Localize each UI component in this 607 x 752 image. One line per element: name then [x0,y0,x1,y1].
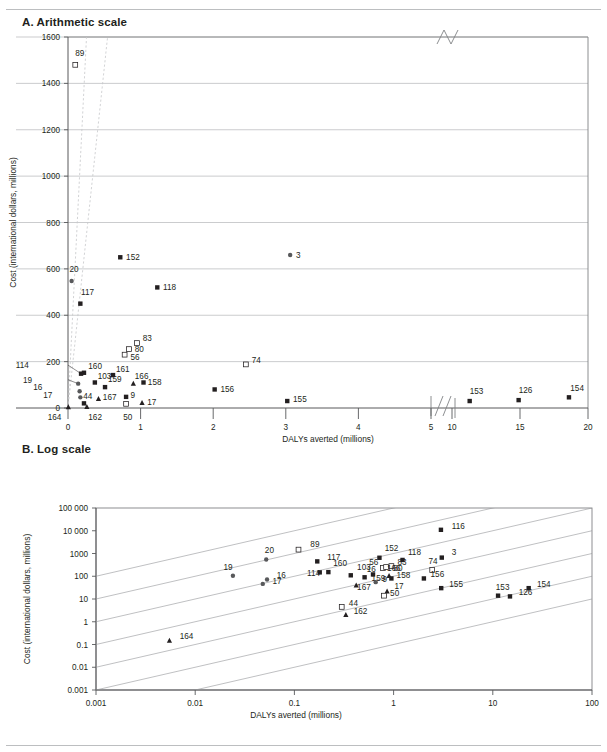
marker-44 [82,401,86,405]
panel-a-datapoint-16: 16 [33,383,82,394]
marker-17 [78,395,82,399]
marker-103 [93,380,97,384]
panel-a-x-ticklabels: 012345101520 [66,408,593,432]
iso-line-1e0 [0,554,607,736]
iso-line-1e5 [0,440,607,622]
marker-17 [261,582,265,586]
marker-156 [212,387,216,391]
panel-b-axes [96,508,592,690]
panel-a-datapoint-56: 56 [122,352,140,362]
marker-158 [141,380,145,384]
panel-a-label-156: 156 [220,385,234,394]
panel-b-label-20: 20 [265,546,275,555]
panel-b-label-50: 50 [390,589,400,598]
panel-b-datapoint-116: 116 [439,522,466,532]
panel-b-label-164: 164 [180,632,194,641]
panel-a-xtick-5: 5 [429,423,434,432]
marker-17b [385,588,390,593]
marker-20 [69,279,73,283]
panel-b-ytick-4: 10 [79,595,89,604]
panel-b-points: 1168920152118311756837480191601141031617… [167,522,551,643]
marker-9 [124,395,128,399]
panel-b-ytick-0: 0.001 [68,686,89,695]
iso-line-1e2 [0,508,607,690]
panel-a-datapoint-167: 167 [96,393,117,402]
panel-a-label-83: 83 [143,334,153,343]
panel-b-datapoint-162: 162 [343,607,368,617]
panel-a-gridlines [16,37,588,362]
panel-a-ytick-1600: 1600 [42,33,61,42]
panel-a-xtick-1: 1 [138,423,143,432]
panel-b-datapoint-126: 126 [508,588,533,598]
panel-a-label-158: 158 [148,378,162,387]
marker-19 [76,381,80,385]
marker-89 [296,547,301,552]
marker-3 [440,555,444,559]
panel-a-label-152: 152 [126,253,140,262]
marker-162 [343,612,348,617]
panel-a-label-17: 17 [43,391,53,400]
panel-a-points: 8920117152311883805674114160161103159166… [16,49,585,422]
panel-a-datapoint-117: 117 [78,288,94,306]
panel-a-datapoint-50: 50 [123,401,133,421]
panel-b-label-155: 155 [449,580,463,589]
panel-a-datapoint-89: 89 [73,49,85,67]
panel-b-y-axis-title: Cost (international dollars, millions) [22,534,32,665]
panel-a-datapoint-19: 19 [23,376,80,386]
marker-117 [78,301,82,305]
marker-153 [496,593,500,597]
iso-line-1e3 [0,485,607,667]
panel-a-label-20: 20 [69,265,79,274]
panel-b-label-160: 160 [333,559,347,568]
panel-a-label-89: 89 [75,49,85,58]
panel-a-label-19: 19 [23,376,33,385]
panel-a-datapoint-166: 166 [131,372,149,386]
marker-17 [139,400,144,405]
panel-a-xtick-15: 15 [515,423,525,432]
panel-b-datapoint-19: 19 [224,563,236,578]
panel-a-xtick-0: 0 [66,423,71,432]
panel-a-label-159: 159 [108,375,122,384]
marker-164 [167,638,172,643]
panel-a-datapoint-9: 9 [124,391,136,400]
marker-155 [439,586,443,590]
panel-a-datapoint-155: 155 [285,395,307,404]
panel-a-datapoint-17: 17 [139,398,156,407]
panel-a-ytick-1400: 1400 [42,79,61,88]
panel-b-xtick-2: 0.1 [289,699,301,708]
panel-a-xtick-3: 3 [284,423,289,432]
panel-b-label-89: 89 [310,540,320,549]
panel-b-label-3: 3 [452,548,457,557]
panel-b-ytick-5: 100 [74,572,88,581]
panel-a-datapoint-154: 154 [567,384,585,399]
panel-a-datapoint-126: 126 [516,386,532,402]
panel-b-label-17: 17 [272,577,282,586]
panel-b-x-axis-title: DALYs averted (millions) [250,710,342,720]
marker-3 [288,253,292,257]
panel-b-datapoint-114: 114 [307,569,322,578]
panel-b-label-154: 154 [537,580,551,589]
panel-b-xtick-3: 1 [391,699,396,708]
panel-a-label-114: 114 [16,361,29,370]
panel-b-label-156: 156 [431,570,445,579]
panel-b-datapoint-164: 164 [167,632,194,642]
panel-b-label-126: 126 [519,588,533,597]
panel-a-datapoint-74: 74 [243,356,261,366]
marker-166 [131,381,136,386]
panel-a-label-155: 155 [293,395,307,404]
panel-a-xtick-10: 10 [447,423,457,432]
panel-a-label-118: 118 [163,283,176,292]
panel-a-label-126: 126 [519,386,533,395]
marker-126 [516,398,520,402]
panel-a-datapoint-17: 17 [43,391,82,400]
marker-89 [73,62,78,67]
panel-a-label-9: 9 [130,391,135,400]
panel-b-datapoint-152: 152 [377,544,399,560]
marker-16 [77,389,81,393]
panel-b-x-ticklabels: 0.0010.010.1110100 [86,690,600,708]
panel-a-datapoint-162: 162 [84,404,102,422]
marker-156 [422,576,426,580]
panel-a-xtick-4: 4 [356,423,361,432]
marker-9 [373,580,377,584]
panel-a-label-162: 162 [88,413,102,422]
